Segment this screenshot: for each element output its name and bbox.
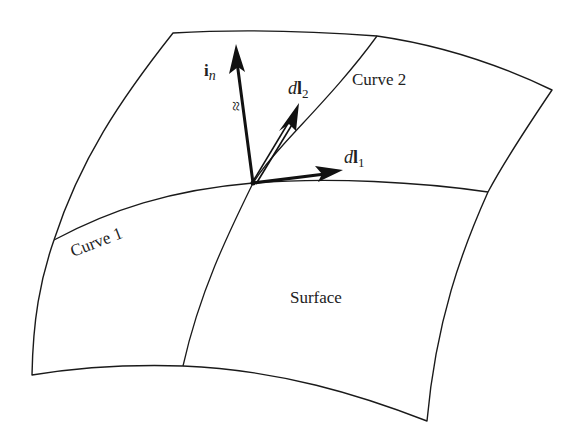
- curve-2-line: [183, 36, 377, 366]
- origin-point: [251, 181, 256, 186]
- diagram-canvas: in ≈ dl2 dl1 Curve 2 Curve 1 Surface: [0, 0, 580, 446]
- curve-2-label: Curve 2: [352, 70, 406, 89]
- surface-label: Surface: [290, 288, 342, 307]
- approx-mark: ≈: [226, 101, 246, 111]
- normal-label: in: [204, 61, 216, 83]
- normal-vector-arrow: [229, 44, 253, 183]
- dl1-label: dl1: [344, 147, 365, 170]
- dl2-vector-arrow: [252, 103, 299, 184]
- surface-vector-diagram: in ≈ dl2 dl1 Curve 2 Curve 1 Surface: [0, 0, 580, 446]
- dl2-label: dl2: [288, 78, 309, 101]
